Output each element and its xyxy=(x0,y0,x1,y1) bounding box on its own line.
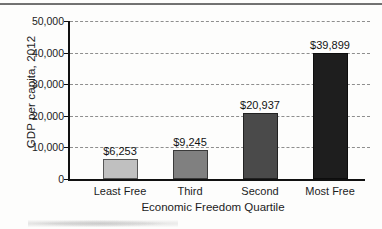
y-axis-tick-label: 30,000 xyxy=(18,78,64,90)
bar-chart-figure: GDP per capita, 2012 010,00020,00030,000… xyxy=(0,0,382,229)
bar-fill xyxy=(173,150,208,179)
gridline xyxy=(70,21,370,22)
y-axis-tick-label: 40,000 xyxy=(18,47,64,59)
x-axis-tick-label: Second xyxy=(241,185,278,197)
bar: $9,245 xyxy=(173,150,208,179)
x-axis-tick-label: Least Free xyxy=(94,185,147,197)
bar-value-label: $20,937 xyxy=(240,99,280,111)
x-axis-tick-label: Most Free xyxy=(305,185,355,197)
bar-fill xyxy=(313,53,348,179)
bar-fill xyxy=(103,159,138,179)
y-axis-tick-label: 10,000 xyxy=(18,141,64,153)
bar: $6,253 xyxy=(103,159,138,179)
y-axis-tick-label: 0 xyxy=(18,173,64,185)
bar: $20,937 xyxy=(243,113,278,179)
bar-value-label: $6,253 xyxy=(103,145,137,157)
y-axis-line xyxy=(68,21,70,179)
y-axis-tick-labels: 010,00020,00030,00040,00050,000 xyxy=(18,0,64,229)
bar-value-label: $9,245 xyxy=(173,136,207,148)
y-axis-tick-label: 20,000 xyxy=(18,110,64,122)
y-axis-tick-label: 50,000 xyxy=(18,15,64,27)
bar-fill xyxy=(243,113,278,179)
bar: $39,899 xyxy=(313,53,348,179)
bar-value-label: $39,899 xyxy=(310,39,350,51)
plot-area: $6,253$9,245$20,937$39,899 Least FreeThi… xyxy=(68,21,358,179)
x-axis-line xyxy=(68,179,365,181)
x-axis-title: Economic Freedom Quartile xyxy=(68,201,358,213)
x-axis-tick-label: Third xyxy=(177,185,202,197)
